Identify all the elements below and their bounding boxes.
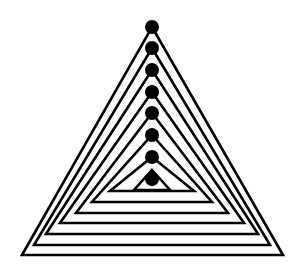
apex-dot <box>145 172 159 186</box>
apex-dot <box>145 106 159 120</box>
dot-column <box>145 20 159 186</box>
nested-triangles-diagram <box>0 0 305 272</box>
apex-dot <box>145 128 159 142</box>
triangle-outline <box>34 48 270 245</box>
apex-dot <box>145 85 159 99</box>
apex-dot <box>145 63 159 77</box>
apex-dot <box>145 20 159 34</box>
apex-dot <box>145 150 159 164</box>
apex-dot <box>145 41 159 55</box>
